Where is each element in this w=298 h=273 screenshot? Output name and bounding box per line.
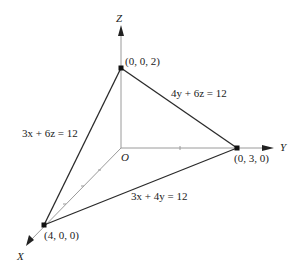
- y-axis-label: Y: [280, 142, 286, 153]
- x-axis-label: X: [17, 251, 24, 262]
- x-axis-arrow-icon: [26, 235, 34, 246]
- z-axis-label: Z: [116, 13, 122, 24]
- trace-yz: [121, 68, 237, 148]
- y-intercept-point: [235, 146, 240, 151]
- x-intercept-label: (4, 0, 0): [44, 230, 79, 241]
- y-intercept-label: (0, 3, 0): [234, 153, 269, 164]
- z-intercept-label: (0, 0, 2): [125, 56, 160, 67]
- trace-xz-label: 3x + 6z = 12: [22, 128, 78, 139]
- trace-yz-label: 4y + 6z = 12: [171, 88, 227, 99]
- x-intercept-point: [42, 223, 47, 228]
- trace-xy: [44, 148, 237, 225]
- z-intercept-point: [119, 66, 124, 71]
- y-axis-arrow-icon: [262, 145, 274, 151]
- trace-xy-label: 3x + 4y = 12: [131, 191, 187, 202]
- origin-label: O: [121, 152, 129, 163]
- z-axis-arrow-icon: [118, 25, 124, 36]
- trace-xz: [44, 68, 121, 225]
